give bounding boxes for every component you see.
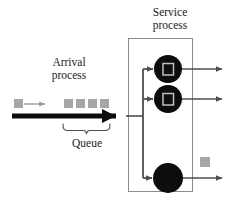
queueing-diagram: Service process Arrival process Queue [0, 0, 239, 208]
server-2 [154, 85, 182, 113]
departed-customer-square [200, 157, 210, 167]
diagram-canvas [0, 0, 239, 208]
server-1 [154, 55, 182, 83]
queue-customers [64, 99, 109, 108]
arrival-customer-square [14, 99, 23, 108]
queue-customer-square [100, 99, 109, 108]
server-3 [153, 163, 183, 193]
queue-customer-square [88, 99, 97, 108]
server-circle [154, 55, 182, 83]
queue-customer-square [64, 99, 73, 108]
queue-brace [63, 124, 110, 134]
server-circle [154, 85, 182, 113]
server-circle [153, 163, 183, 193]
queue-customer-square [76, 99, 85, 108]
